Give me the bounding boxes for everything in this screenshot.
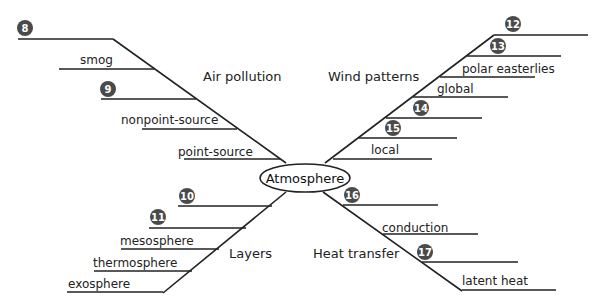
item-mesosphere: mesosphere <box>120 234 194 248</box>
category-heat-transfer: Heat transfer <box>313 246 400 261</box>
badge-10: 10 <box>179 188 195 204</box>
item-nonpoint-source: nonpoint-source <box>121 113 218 127</box>
badge-12: 12 <box>505 16 521 32</box>
badge-15: 15 <box>385 120 401 136</box>
badge-13: 13 <box>490 38 506 54</box>
svg-text:8: 8 <box>22 23 29 34</box>
badge-8: 8 <box>17 20 33 36</box>
badge-14: 14 <box>413 100 429 116</box>
svg-text:10: 10 <box>180 191 194 202</box>
svg-text:14: 14 <box>414 103 428 114</box>
badge-17: 17 <box>417 244 433 260</box>
svg-text:11: 11 <box>151 212 165 223</box>
item-latent-heat: latent heat <box>462 274 528 288</box>
svg-text:16: 16 <box>345 190 359 201</box>
svg-text:12: 12 <box>506 19 520 30</box>
svg-text:9: 9 <box>105 84 112 95</box>
category-layers: Layers <box>229 246 272 261</box>
item-exosphere: exosphere <box>68 277 130 291</box>
badge-11: 11 <box>150 209 166 225</box>
item-point-source: point-source <box>178 145 253 159</box>
badge-9: 9 <box>100 81 116 97</box>
item-global: global <box>437 82 474 96</box>
svg-text:15: 15 <box>386 123 400 134</box>
item-conduction: conduction <box>382 221 448 235</box>
category-air-pollution: Air pollution <box>203 69 282 84</box>
concept-map: Atmosphere Air pollution Wind patterns L… <box>0 0 602 307</box>
svg-text:17: 17 <box>418 247 432 258</box>
svg-text:13: 13 <box>491 41 505 52</box>
category-wind-patterns: Wind patterns <box>328 69 420 84</box>
item-local: local <box>371 143 399 157</box>
item-smog: smog <box>80 53 113 67</box>
item-polar-easterlies: polar easterlies <box>462 62 555 76</box>
center-label: Atmosphere <box>266 171 345 186</box>
item-thermosphere: thermosphere <box>93 256 177 270</box>
badge-16: 16 <box>344 187 360 203</box>
